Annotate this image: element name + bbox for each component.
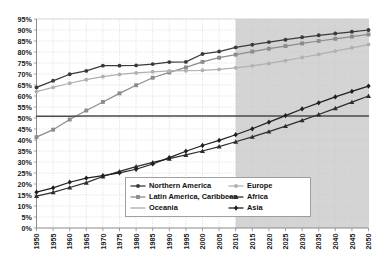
series-marker (201, 68, 205, 72)
y-axis-tick-label: 25% (18, 169, 33, 178)
series-marker (333, 49, 337, 53)
y-axis-tick-label: 0% (22, 224, 33, 233)
series-marker (101, 75, 105, 79)
series-marker (201, 60, 205, 64)
x-axis-tick-label: 1995 (182, 234, 191, 250)
series-marker (333, 37, 337, 41)
series-marker (367, 32, 371, 36)
series-marker (134, 71, 138, 75)
series-marker (84, 69, 88, 73)
x-axis-tick-label: 1970 (99, 234, 108, 250)
y-axis-tick-label: 65% (18, 81, 33, 90)
y-axis-tick-label: 60% (18, 92, 33, 101)
series-marker (35, 90, 39, 94)
legend-item-label: Oceania (149, 203, 179, 212)
series-marker (317, 52, 321, 56)
series-marker (267, 40, 271, 44)
series-marker (317, 39, 321, 43)
urbanization-line-chart: 0%5%10%15%20%25%30%35%40%45%50%55%60%65%… (0, 0, 381, 260)
y-axis-tick-label: 10% (18, 202, 33, 211)
x-axis-tick-label: 2005 (215, 234, 224, 250)
series-marker (234, 66, 238, 70)
x-axis-tick-label: 2035 (314, 234, 323, 250)
series-marker (267, 47, 271, 51)
series-marker (151, 62, 155, 66)
y-axis-tick-label: 15% (18, 191, 33, 200)
series-marker (151, 70, 155, 74)
series-marker (184, 60, 188, 64)
series-marker (217, 50, 221, 54)
x-axis-tick-label: 1985 (148, 234, 157, 250)
series-marker (267, 61, 271, 65)
y-axis-tick-label: 75% (18, 59, 33, 68)
y-axis-tick-label: 40% (18, 136, 33, 145)
series-marker (300, 56, 304, 60)
x-axis-tick-label: 2045 (348, 234, 357, 250)
series-marker (184, 69, 188, 73)
x-axis-tick-label: 1980 (132, 234, 141, 250)
series-marker (101, 100, 105, 104)
legend-item-label: Asia (247, 203, 264, 212)
series-marker (167, 69, 171, 73)
x-axis-tick-label: 2050 (364, 234, 373, 250)
series-marker (284, 44, 288, 48)
series-marker (84, 78, 88, 82)
series-marker (118, 72, 122, 76)
x-axis-tick-label: 1955 (49, 234, 58, 250)
x-axis-tick-label: 2025 (281, 234, 290, 250)
y-axis-tick-label: 95% (18, 15, 33, 24)
series-marker (217, 67, 221, 71)
legend-swatch-marker (136, 195, 140, 199)
series-marker (35, 135, 39, 139)
chart-legend: Northern AmericaLatin America, Caribbean… (126, 178, 311, 217)
legend-swatch-marker (136, 184, 140, 188)
y-axis-tick-label: 55% (18, 103, 33, 112)
x-axis-tick-label: 2000 (198, 234, 207, 250)
x-axis-tick-label: 1950 (32, 234, 41, 250)
series-marker (68, 72, 72, 76)
series-marker (35, 85, 39, 89)
x-axis-tick-label: 1960 (65, 234, 74, 250)
series-marker (350, 35, 354, 39)
legend-swatch-marker (234, 184, 238, 188)
series-marker (367, 28, 371, 32)
series-marker (300, 41, 304, 45)
series-marker (250, 64, 254, 68)
y-axis-tick-label: 30% (18, 158, 33, 167)
x-axis-tick-labels: 1950195519601965197019751980198519901995… (32, 234, 373, 250)
legend-item-label: Latin America, Caribbean (149, 192, 238, 201)
x-axis-tick-label: 2030 (298, 234, 307, 250)
series-marker (167, 60, 171, 64)
series-marker (367, 43, 371, 47)
series-marker (101, 64, 105, 68)
x-axis-tick-label: 2015 (248, 234, 257, 250)
series-marker (201, 52, 205, 56)
legend-item-label: Africa (247, 192, 269, 201)
y-axis-tick-label: 20% (18, 180, 33, 189)
legend-item-label: Northern America (149, 181, 212, 190)
x-axis-tick-label: 1965 (82, 234, 91, 250)
y-axis-tick-label: 80% (18, 48, 33, 57)
legend-item-label: Europe (247, 181, 272, 190)
series-marker (68, 118, 72, 122)
series-marker (68, 81, 72, 85)
y-axis-tick-label: 50% (18, 114, 33, 123)
x-axis-tick-label: 2020 (265, 234, 274, 250)
series-marker (84, 109, 88, 113)
x-axis-tick-label: 2010 (231, 234, 240, 250)
series-marker (51, 128, 55, 132)
series-marker (333, 32, 337, 36)
chart-container: 0%5%10%15%20%25%30%35%40%45%50%55%60%65%… (0, 0, 381, 260)
y-axis-tick-label: 85% (18, 37, 33, 46)
x-axis-tick-label: 2040 (331, 234, 340, 250)
series-marker (118, 91, 122, 95)
series-marker (250, 43, 254, 47)
series-marker (51, 79, 55, 83)
series-marker (284, 38, 288, 42)
series-marker (217, 56, 221, 60)
series-marker (51, 85, 55, 89)
y-axis-tick-label: 90% (18, 26, 33, 35)
series-marker (250, 50, 254, 54)
series-marker (134, 63, 138, 67)
y-axis-tick-label: 70% (18, 70, 33, 79)
